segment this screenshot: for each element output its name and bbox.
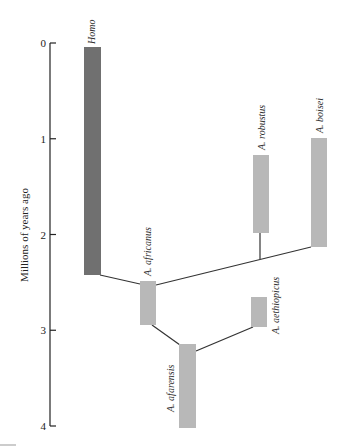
label-homo: Homo <box>86 20 97 45</box>
phylogeny-diagram: 01234 Millions of years ago Homo A. afri… <box>0 0 342 446</box>
label-afarensis: A. afarensis <box>165 364 176 413</box>
y-tick-label: 2 <box>41 229 47 241</box>
y-tick-label: 3 <box>41 324 47 336</box>
y-tick-label: 1 <box>41 133 47 145</box>
bar-africanus <box>140 281 156 325</box>
label-aethiopicus: A. aethiopicus <box>270 277 281 335</box>
bar-homo <box>84 47 101 275</box>
bar-boisei <box>311 138 327 247</box>
label-africanus: A. africanus <box>142 227 153 277</box>
y-axis-title: Millions of years ago <box>18 188 30 282</box>
taxon-bars <box>84 47 327 428</box>
label-robustus: A. robustus <box>256 105 267 151</box>
taxon-labels: Homo A. africanus A. afarensis A. aethio… <box>86 20 325 413</box>
bar-aethiopicus <box>251 297 267 327</box>
branch-africanus-boisei <box>156 247 311 285</box>
branch-afarensis-aethiopicus <box>196 327 253 351</box>
y-tick-label: 0 <box>41 37 47 49</box>
branch-homo-africanus <box>100 275 140 284</box>
diagram-canvas: 01234 Millions of years ago Homo A. afri… <box>0 0 342 446</box>
y-axis: 01234 Millions of years ago <box>18 37 56 432</box>
label-boisei: A. boisei <box>314 98 325 134</box>
bar-afarensis <box>179 344 196 428</box>
bar-robustus <box>253 155 269 233</box>
branch-africanus-afarensis <box>152 325 180 345</box>
y-tick-label: 4 <box>41 420 47 432</box>
